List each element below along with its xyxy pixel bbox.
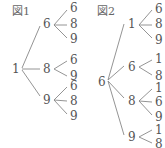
tree-connector-lines [0, 0, 165, 148]
